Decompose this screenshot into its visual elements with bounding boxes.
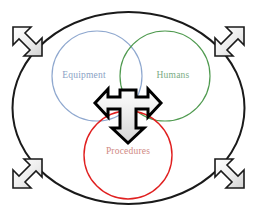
venn-label-humans: Humans <box>157 70 190 80</box>
expansion-arrow-bottom-right[interactable] <box>215 159 244 188</box>
expansion-arrow-top-left[interactable] <box>13 27 42 56</box>
expansion-arrow-bottom-left[interactable] <box>13 159 42 188</box>
three-way-interaction-arrow[interactable] <box>95 88 161 143</box>
venn-label-equipment: Equipment <box>62 70 106 80</box>
expansion-arrow-top-right[interactable] <box>215 27 244 56</box>
venn-diagram: Equipment Humans Procedures <box>0 0 257 215</box>
venn-label-procedures: Procedures <box>106 146 150 156</box>
diagram-canvas: Equipment Humans Procedures <box>0 0 257 215</box>
